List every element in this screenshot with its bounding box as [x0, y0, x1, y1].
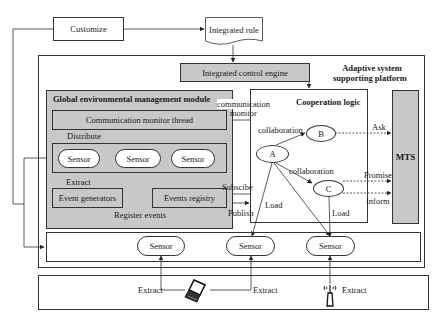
node-a: A	[256, 145, 289, 163]
bottom-sensor-1: Sensor	[137, 236, 185, 256]
publish-label: Publish	[228, 208, 254, 218]
extract-label-3: Extract	[342, 285, 367, 295]
integrated-control-engine: Integrated control engine	[180, 63, 310, 82]
node-b: B	[306, 125, 336, 142]
subscribe-label: Subscibe	[222, 182, 253, 192]
sensor-label: Sensor	[126, 154, 149, 164]
integrated-rule-document: Integrated rule	[205, 17, 263, 47]
mts-label: MTS	[396, 152, 416, 162]
event-generators: Event generators	[52, 188, 123, 208]
customize-label: Customize	[70, 24, 106, 34]
node-b-label: B	[318, 129, 324, 139]
node-c-label: C	[326, 184, 332, 194]
node-c: C	[313, 180, 344, 197]
events-registry-label: Events registry	[164, 193, 215, 203]
global-module-title: Global environmental management module	[53, 94, 210, 104]
inform-label: Inform	[366, 196, 390, 206]
extract-label-2: Extract	[253, 285, 278, 295]
sensor-label: Sensor	[239, 241, 262, 251]
extract-label: Extract	[66, 177, 91, 187]
sensor-label: Sensor	[319, 241, 342, 251]
global-sensor-2: Sensor	[115, 149, 161, 168]
ask-label: Ask	[372, 122, 386, 132]
laptop-icon	[184, 277, 212, 305]
platform-title-line2: supporting platform	[318, 73, 422, 83]
collaboration-ac-label: collaboration	[289, 166, 334, 176]
global-sensor-3: Sensor	[171, 149, 215, 168]
customize-box: Customize	[53, 17, 124, 41]
load-left-label: Load	[265, 200, 282, 210]
sensor-label: Sensor	[181, 154, 204, 164]
communication-monitor-thread: Communication monitor thread	[52, 110, 227, 130]
antenna-device-icon	[322, 282, 338, 308]
node-a-label: A	[269, 149, 275, 159]
control-engine-label: Integrated control engine	[202, 68, 287, 78]
platform-title-line1: Adaptive system	[324, 63, 420, 73]
integrated-rule-label: Integrated rule	[205, 19, 263, 41]
load-right-label: Load	[332, 208, 349, 218]
register-events-label: Register events	[114, 210, 166, 220]
bottom-sensor-2: Sensor	[226, 236, 275, 256]
collaboration-ab-label: collaboration	[258, 125, 303, 135]
comm-thread-label: Communication monitor thread	[86, 115, 193, 125]
global-sensor-1: Sensor	[58, 149, 100, 168]
device-layer-box	[38, 275, 429, 310]
mts-box: MTS	[392, 90, 419, 224]
bottom-sensor-3: Sensor	[306, 236, 355, 256]
sensor-label: Sensor	[67, 154, 90, 164]
sensor-label: Sensor	[149, 241, 172, 251]
event-generators-label: Event generators	[59, 193, 116, 203]
promise-label: Promise	[364, 170, 392, 180]
extract-label-1: Extract	[138, 285, 163, 295]
events-registry: Events registry	[152, 188, 227, 208]
cooperation-logic-title: Cooperation logic	[296, 97, 360, 107]
distribute-label: Distribute	[67, 131, 101, 141]
